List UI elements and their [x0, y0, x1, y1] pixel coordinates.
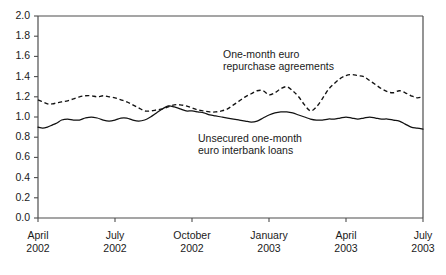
x-tick-label-year: 2003: [232, 242, 306, 255]
unsecured-annotation: Unsecured one-month euro interbank loans: [198, 133, 302, 157]
x-tick-label-month: January: [232, 229, 306, 242]
y-tick-label: 0.0: [0, 211, 30, 224]
x-tick-label-month: October: [155, 229, 229, 242]
repo-annotation-line-2: repurchase agreements: [223, 61, 334, 73]
x-tick-label-year: 2003: [309, 242, 383, 255]
series-line-repo: [38, 75, 423, 112]
x-tick-label: October2002: [155, 229, 229, 254]
x-tick-label-year: 2002: [155, 242, 229, 255]
y-tick-label: 0.4: [0, 171, 30, 184]
x-tick-label: April2002: [1, 229, 75, 254]
x-tick-label-month: April: [309, 229, 383, 242]
y-tick-label: 0.6: [0, 150, 30, 163]
x-tick-label: April2003: [309, 229, 383, 254]
x-axis-ticks-group: [38, 218, 423, 222]
x-tick-label-year: 2003: [386, 242, 446, 255]
x-tick-label-year: 2002: [1, 242, 75, 255]
series-line-unsecured: [38, 106, 423, 129]
y-tick-label: 1.8: [0, 29, 30, 42]
x-tick-label-year: 2002: [78, 242, 152, 255]
x-tick-label: July2002: [78, 229, 152, 254]
chart-figure: One-month euro repurchase agreements Uns…: [0, 0, 446, 275]
y-tick-label: 1.6: [0, 49, 30, 62]
x-tick-label-month: April: [1, 229, 75, 242]
y-tick-label: 0.2: [0, 191, 30, 204]
y-tick-label: 1.2: [0, 90, 30, 103]
y-tick-label: 1.0: [0, 110, 30, 123]
unsecured-annotation-line-2: euro interbank loans: [198, 145, 302, 157]
x-tick-label-month: July: [78, 229, 152, 242]
y-tick-label: 2.0: [0, 9, 30, 22]
y-tick-label: 1.4: [0, 70, 30, 83]
x-tick-label-month: July: [386, 229, 446, 242]
repo-annotation: One-month euro repurchase agreements: [223, 49, 334, 73]
x-tick-label: January2003: [232, 229, 306, 254]
x-tick-label: July2003: [386, 229, 446, 254]
y-tick-label: 0.8: [0, 130, 30, 143]
